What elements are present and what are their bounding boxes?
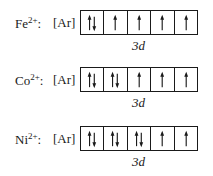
- single-electron-orbital: [128, 11, 151, 34]
- orbital-boxes: [80, 10, 198, 35]
- ion-label: Ni2+:: [15, 131, 41, 148]
- noble-gas-core: [Ar]: [53, 15, 75, 31]
- single-electron-orbital: [175, 11, 197, 34]
- subshell-label: 3d: [132, 95, 145, 111]
- single-electron-orbital: [151, 127, 174, 150]
- orbital-boxes: [80, 67, 198, 92]
- ion-label: Fe2+:: [15, 15, 41, 32]
- configuration-row-co: Co2+:[Ar]3d: [0, 61, 213, 117]
- noble-gas-core: [Ar]: [53, 72, 75, 88]
- paired-electrons-orbital: [81, 68, 104, 91]
- single-electron-orbital: [175, 127, 197, 150]
- noble-gas-core: [Ar]: [53, 131, 75, 147]
- configuration-row-fe: Fe2+:[Ar]3d: [0, 4, 213, 60]
- paired-electrons-orbital: [128, 127, 151, 150]
- single-electron-orbital: [151, 68, 174, 91]
- paired-electrons-orbital: [104, 68, 127, 91]
- single-electron-orbital: [128, 68, 151, 91]
- single-electron-orbital: [175, 68, 197, 91]
- paired-electrons-orbital: [104, 127, 127, 150]
- paired-electrons-orbital: [81, 11, 104, 34]
- orbital-boxes: [80, 126, 198, 151]
- single-electron-orbital: [104, 11, 127, 34]
- configuration-row-ni: Ni2+:[Ar]3d: [0, 120, 213, 176]
- subshell-label: 3d: [132, 154, 145, 170]
- subshell-label: 3d: [132, 38, 145, 54]
- single-electron-orbital: [151, 11, 174, 34]
- paired-electrons-orbital: [81, 127, 104, 150]
- ion-label: Co2+:: [15, 72, 43, 89]
